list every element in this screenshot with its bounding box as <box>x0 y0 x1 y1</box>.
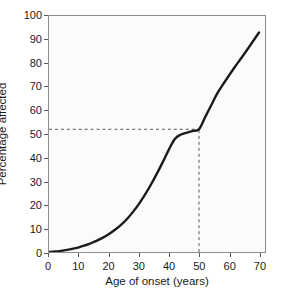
y-tick-label: 80 <box>2 57 42 68</box>
x-tick-mark <box>169 253 170 257</box>
y-tick-label: 10 <box>2 224 42 235</box>
y-axis-title: Percentage affected <box>0 83 8 186</box>
x-tick-label: 20 <box>102 261 114 272</box>
x-tick-label: 0 <box>45 261 51 272</box>
y-tick-label: 0 <box>2 248 42 259</box>
x-tick-mark <box>230 253 231 257</box>
x-tick-mark <box>48 253 49 257</box>
y-tick-label: 50 <box>2 129 42 140</box>
x-tick-label: 70 <box>254 261 266 272</box>
y-tick-label: 90 <box>2 33 42 44</box>
y-tick-label: 20 <box>2 200 42 211</box>
x-tick-label: 30 <box>133 261 145 272</box>
x-tick-label: 50 <box>193 261 205 272</box>
x-tick-mark <box>109 253 110 257</box>
x-tick-mark <box>260 253 261 257</box>
x-tick-mark <box>139 253 140 257</box>
plot-svg <box>49 16 265 252</box>
x-tick-label: 10 <box>72 261 84 272</box>
y-tick-label: 30 <box>2 176 42 187</box>
plot-area <box>48 15 266 253</box>
y-tick-label: 100 <box>2 10 42 21</box>
x-axis-title: Age of onset (years) <box>48 275 266 287</box>
data-curve <box>49 33 259 252</box>
y-axis-title-text: Percentage affected <box>0 83 8 186</box>
chart-figure: 0102030405060708090100 010203040506070 A… <box>0 0 303 297</box>
reference-lines <box>49 129 199 252</box>
x-tick-mark <box>78 253 79 257</box>
x-tick-label: 40 <box>163 261 175 272</box>
y-tick-label: 70 <box>2 81 42 92</box>
y-tick-label: 60 <box>2 105 42 116</box>
y-tick-label: 40 <box>2 152 42 163</box>
x-tick-label: 60 <box>224 261 236 272</box>
x-tick-mark <box>199 253 200 257</box>
